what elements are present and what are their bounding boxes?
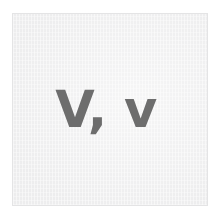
letter-pair-text: V, v: [55, 85, 156, 136]
letter-card-page: V, v: [0, 0, 221, 222]
letter-card: V, v: [12, 13, 208, 206]
